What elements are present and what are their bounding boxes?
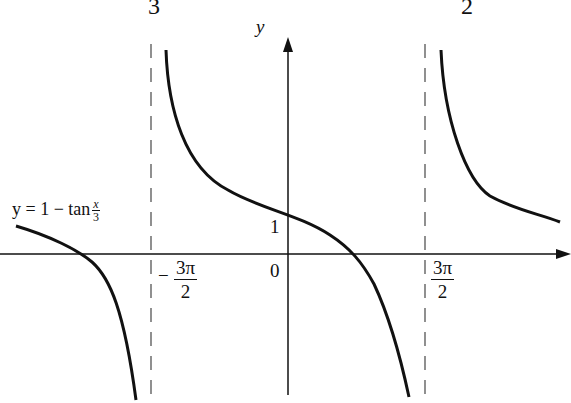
top-fragment-right: 2 [461, 0, 473, 18]
y-axis-arrow-icon [283, 37, 293, 52]
neg-sign: − [158, 266, 169, 285]
tick-denominator: 2 [431, 280, 454, 301]
x-tick-3pi-2: 3π 2 [431, 258, 454, 301]
curve-branch-right [441, 50, 560, 222]
curve-label-fraction: x3 [92, 198, 99, 223]
curve-branch-left [16, 226, 136, 400]
curve-label-lhs: y = 1 − tan [12, 199, 90, 219]
x-tick-neg-3pi-2: 3π 2 [174, 258, 197, 301]
y-tick-1: 1 [270, 217, 280, 236]
origin-label: 0 [270, 261, 280, 280]
top-fragment-left: 3 [148, 0, 160, 18]
frac-den: 3 [92, 211, 99, 223]
x-axis-arrow-icon [556, 249, 571, 259]
curve-label: y = 1 − tanx3 [12, 198, 100, 223]
tick-numerator: 3π [174, 258, 197, 280]
y-axis-label: y [256, 17, 264, 36]
tick-numerator: 3π [431, 258, 454, 280]
tick-denominator: 2 [174, 280, 197, 301]
